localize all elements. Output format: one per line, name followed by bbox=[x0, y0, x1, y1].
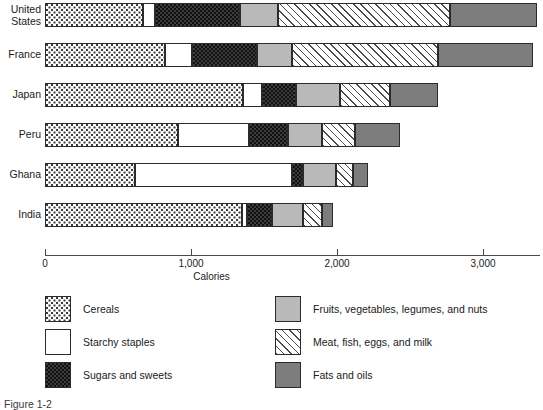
bar-segment-cereals bbox=[45, 163, 135, 187]
bar-row: United States bbox=[0, 3, 543, 27]
bar-row-label: Japan bbox=[0, 89, 41, 101]
bar-segment-cereals bbox=[45, 203, 242, 227]
bar-segment-meat bbox=[340, 83, 390, 107]
legend-label-meat: Meat, fish, eggs, and milk bbox=[313, 336, 432, 348]
stacked-bar bbox=[45, 43, 533, 67]
legend-label-fats: Fats and oils bbox=[313, 369, 373, 381]
bar-row-label: France bbox=[0, 49, 41, 61]
stacked-bar bbox=[45, 203, 333, 227]
bar-segment-fats bbox=[355, 123, 400, 147]
bar-segment-fruits bbox=[272, 203, 303, 227]
bar-segment-starchy bbox=[135, 163, 292, 187]
legend-label-starchy: Starchy staples bbox=[83, 336, 155, 348]
bar-segment-fruits bbox=[296, 83, 340, 107]
bar-segment-sugars bbox=[155, 3, 240, 27]
bar-segment-meat bbox=[292, 43, 438, 67]
bar-segment-fats bbox=[438, 43, 533, 67]
legend-label-cereals: Cereals bbox=[83, 303, 119, 315]
stacked-bar bbox=[45, 3, 537, 27]
axis-tick-label: 0 bbox=[42, 258, 48, 269]
bar-row: Ghana bbox=[0, 163, 543, 187]
bar-segment-starchy bbox=[243, 83, 262, 107]
legend-swatch-sugars bbox=[45, 362, 71, 388]
legend-label-fruits: Fruits, vegetables, legumes, and nuts bbox=[313, 303, 488, 315]
bar-segment-fruits bbox=[303, 163, 337, 187]
legend-swatch-meat bbox=[275, 329, 301, 355]
bar-row-label: India bbox=[0, 209, 41, 221]
bar-row: France bbox=[0, 43, 543, 67]
stacked-bar bbox=[45, 83, 438, 107]
stacked-bar bbox=[45, 123, 400, 147]
bar-segment-starchy bbox=[143, 3, 155, 27]
legend-swatch-fats bbox=[275, 362, 301, 388]
bar-segment-sugars bbox=[292, 163, 303, 187]
x-axis: 01,0002,0003,000 Calories bbox=[0, 245, 543, 285]
bar-segment-fats bbox=[390, 83, 437, 107]
bar-segment-starchy bbox=[178, 123, 250, 147]
bar-row-label: Peru bbox=[0, 129, 41, 141]
legend-label-sugars: Sugars and sweets bbox=[83, 369, 172, 381]
axis-tick-label: 1,000 bbox=[178, 258, 203, 269]
bar-segment-cereals bbox=[45, 83, 243, 107]
bar-segment-fats bbox=[322, 203, 332, 227]
bar-segment-sugars bbox=[249, 123, 288, 147]
axis-tick-label: 3,000 bbox=[470, 258, 495, 269]
bar-row: India bbox=[0, 203, 543, 227]
axis-title-text: Calories bbox=[193, 271, 230, 282]
bar-segment-fruits bbox=[288, 123, 322, 147]
bar-segment-meat bbox=[322, 123, 355, 147]
axis-title: Calories bbox=[0, 271, 543, 282]
legend-swatch-cereals bbox=[45, 296, 71, 322]
axis-tick bbox=[337, 249, 338, 256]
axis-tick bbox=[483, 249, 484, 256]
bar-segment-meat bbox=[278, 3, 450, 27]
bar-row: Japan bbox=[0, 83, 543, 107]
bar-segment-fats bbox=[450, 3, 537, 27]
axis-tick bbox=[45, 249, 46, 256]
axis-tick bbox=[191, 249, 192, 256]
bar-row-label: Ghana bbox=[0, 169, 41, 181]
bar-segment-starchy bbox=[165, 43, 193, 67]
bar-segment-meat bbox=[303, 203, 323, 227]
legend-swatch-starchy bbox=[45, 329, 71, 355]
bar-segment-sugars bbox=[262, 83, 296, 107]
bar-segment-fruits bbox=[240, 3, 278, 27]
bar-segment-fats bbox=[353, 163, 368, 187]
bar-segment-cereals bbox=[45, 43, 165, 67]
stacked-bar bbox=[45, 163, 368, 187]
bar-segment-fruits bbox=[257, 43, 292, 67]
bar-segment-sugars bbox=[192, 43, 256, 67]
legend-swatch-fruits bbox=[275, 296, 301, 322]
bar-row: Peru bbox=[0, 123, 543, 147]
bar-row-label: United States bbox=[0, 4, 41, 27]
bar-segment-cereals bbox=[45, 3, 143, 27]
bar-segment-cereals bbox=[45, 123, 178, 147]
bar-segment-sugars bbox=[247, 203, 272, 227]
legend: CerealsStarchy staplesSugars and sweets … bbox=[0, 296, 543, 388]
bar-segment-meat bbox=[336, 163, 353, 187]
axis-line bbox=[45, 255, 540, 256]
axis-tick-label: 2,000 bbox=[324, 258, 349, 269]
figure-caption: Figure 1-2 bbox=[4, 398, 52, 410]
